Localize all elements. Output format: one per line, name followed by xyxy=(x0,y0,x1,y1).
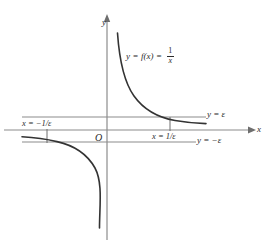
lower-epsilon-label: y = −ε xyxy=(197,136,221,145)
function-equation-label: y = f(x) = 1 x xyxy=(126,47,174,65)
x-neg-threshold-label: x = −1/ε xyxy=(22,119,51,128)
fraction-denominator: x xyxy=(167,57,173,66)
hyperbola-lower-left-branch xyxy=(22,137,100,228)
origin-label: O xyxy=(95,133,102,143)
figure-canvas: y x O y = f(x) = 1 x y = ε y = −ε x = −1… xyxy=(0,0,266,247)
fraction-numerator: 1 xyxy=(167,47,173,56)
x-pos-threshold-label: x = 1/ε xyxy=(152,132,176,141)
function-lhs: y xyxy=(126,51,130,61)
x-axis-label: x xyxy=(257,125,261,134)
function-fx: f(x) xyxy=(141,51,154,61)
x-axis-arrowhead xyxy=(248,127,256,134)
y-axis-label: y xyxy=(102,18,106,27)
equals-sign-1: = xyxy=(133,51,138,61)
upper-epsilon-label: y = ε xyxy=(207,110,225,119)
fraction-one-over-x: 1 x xyxy=(167,47,174,65)
equals-sign-2: = xyxy=(157,51,162,61)
